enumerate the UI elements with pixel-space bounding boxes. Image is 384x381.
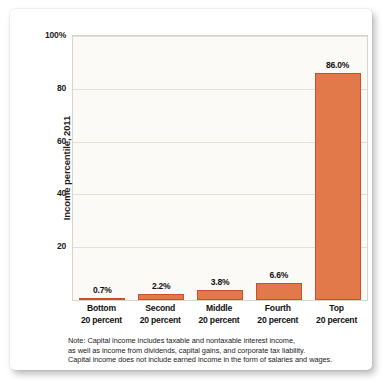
x-axis-label: Bottom20 percent xyxy=(69,303,133,326)
bar-value-label: 2.2% xyxy=(135,281,187,291)
x-axis-label: Top20 percent xyxy=(305,303,369,326)
bar-series: 0.7%2.2%3.8%6.6%86.0% xyxy=(73,36,367,300)
bar[interactable] xyxy=(315,73,361,300)
plot-area: 0.7%2.2%3.8%6.6%86.0% xyxy=(72,35,368,301)
bar-slot: 0.7% xyxy=(76,36,128,300)
note-line-2: as well as income from dividends, capita… xyxy=(68,346,378,356)
x-axis-label-line: 20 percent xyxy=(305,315,369,327)
x-axis-label-line: 20 percent xyxy=(128,315,192,327)
x-axis-label-line: Top xyxy=(305,303,369,315)
x-axis-label-line: Middle xyxy=(187,303,251,315)
bar-slot: 2.2% xyxy=(135,36,187,300)
x-axis-label: Fourth20 percent xyxy=(246,303,310,326)
bar-value-label: 6.6% xyxy=(253,270,305,280)
x-axis-label-line: Second xyxy=(128,303,192,315)
bar[interactable] xyxy=(197,290,243,300)
x-axis-label-line: 20 percent xyxy=(187,315,251,327)
note-line-3: Capital income does not include earned i… xyxy=(68,355,378,365)
bar-slot: 3.8% xyxy=(194,36,246,300)
x-axis-label-line: 20 percent xyxy=(246,315,310,327)
bar-value-label: 86.0% xyxy=(312,60,364,70)
x-axis-label-line: Bottom xyxy=(69,303,133,315)
x-axis-label-line: Fourth xyxy=(246,303,310,315)
bar[interactable] xyxy=(256,283,302,300)
chart-card: 0.7%2.2%3.8%6.6%86.0% 20406080100% Incom… xyxy=(10,9,372,370)
bar-slot: 6.6% xyxy=(253,36,305,300)
x-axis-label: Second20 percent xyxy=(128,303,192,326)
bar[interactable] xyxy=(79,298,125,300)
note-line-1: Note: Capital income includes taxable an… xyxy=(68,336,378,346)
y-axis-title-wrap: Income percentile, 2011 xyxy=(36,35,56,301)
chart-note: Note: Capital income includes taxable an… xyxy=(68,336,378,365)
chart-page: 0.7%2.2%3.8%6.6%86.0% 20406080100% Incom… xyxy=(0,0,384,381)
bar-value-label: 3.8% xyxy=(194,277,246,287)
bar-slot: 86.0% xyxy=(312,36,364,300)
bar-value-label: 0.7% xyxy=(76,285,128,295)
y-axis-title: Income percentile, 2011 xyxy=(61,116,72,220)
x-axis-label-line: 20 percent xyxy=(69,315,133,327)
x-axis-label: Middle20 percent xyxy=(187,303,251,326)
bar[interactable] xyxy=(138,294,184,300)
x-axis-labels: Bottom20 percentSecond20 percentMiddle20… xyxy=(72,303,368,331)
